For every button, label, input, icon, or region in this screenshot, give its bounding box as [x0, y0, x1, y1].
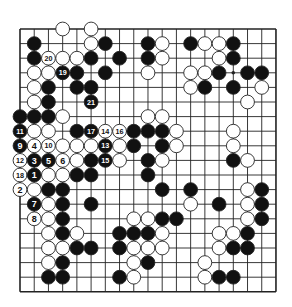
go-board: 201921111714169410131235615181278	[0, 0, 292, 307]
stone-disc	[170, 212, 184, 226]
stone-disc	[226, 81, 240, 95]
stone-disc	[141, 51, 155, 65]
white-stone-move-12: 12	[13, 154, 27, 168]
black-stone-move-17: 17	[84, 124, 98, 138]
stone-disc	[241, 241, 255, 255]
stone-disc	[127, 241, 141, 255]
black-stone	[226, 154, 240, 168]
stone-disc	[155, 51, 169, 65]
stone-disc	[212, 66, 226, 80]
white-stone-move-4: 4	[27, 139, 41, 153]
black-stone	[56, 227, 70, 241]
stone-disc	[141, 241, 155, 255]
black-stone	[98, 66, 112, 80]
black-stone	[141, 37, 155, 51]
white-stone	[198, 256, 212, 270]
stone-disc	[141, 168, 155, 182]
white-stone	[170, 139, 184, 153]
white-stone	[42, 168, 56, 182]
stone-disc	[255, 183, 269, 197]
black-stone	[70, 168, 84, 182]
stone-disc	[155, 183, 169, 197]
move-number-label: 18	[16, 171, 24, 180]
black-stone	[141, 168, 155, 182]
stone-disc	[84, 51, 98, 65]
black-stone	[170, 212, 184, 226]
stone-disc	[141, 110, 155, 124]
stone-disc	[241, 154, 255, 168]
stone-disc	[70, 51, 84, 65]
black-stone	[155, 212, 169, 226]
black-stone	[198, 81, 212, 95]
black-stone	[141, 227, 155, 241]
stone-disc	[155, 110, 169, 124]
stone-disc	[84, 168, 98, 182]
stone-disc	[255, 81, 269, 95]
move-number-label: 21	[87, 98, 95, 107]
move-number-label: 14	[101, 127, 109, 136]
white-stone-move-8: 8	[27, 212, 41, 226]
move-number-label: 6	[60, 156, 65, 166]
stone-disc	[226, 37, 240, 51]
stone-disc	[141, 212, 155, 226]
black-stone	[42, 110, 56, 124]
white-stone	[56, 139, 70, 153]
move-number-label: 12	[16, 156, 24, 165]
black-stone	[212, 66, 226, 80]
black-stone	[84, 81, 98, 95]
stone-disc	[141, 124, 155, 138]
stone-disc	[113, 270, 127, 284]
stone-disc	[155, 124, 169, 138]
stone-disc	[56, 212, 70, 226]
stone-disc	[70, 241, 84, 255]
white-stone	[27, 66, 41, 80]
stone-disc	[70, 81, 84, 95]
stone-disc	[56, 241, 70, 255]
black-stone-move-5: 5	[42, 154, 56, 168]
white-stone	[56, 22, 70, 36]
white-stone	[127, 241, 141, 255]
stone-disc	[241, 227, 255, 241]
stone-disc	[42, 212, 56, 226]
stone-disc	[84, 37, 98, 51]
stone-disc	[56, 168, 70, 182]
black-stone	[255, 66, 269, 80]
stone-disc	[241, 197, 255, 211]
white-stone	[113, 139, 127, 153]
stone-disc	[241, 66, 255, 80]
stone-disc	[70, 139, 84, 153]
move-number-label: 2	[17, 185, 22, 195]
white-stone	[42, 66, 56, 80]
move-number-label: 10	[44, 141, 52, 150]
black-stone	[113, 241, 127, 255]
white-stone	[127, 256, 141, 270]
stone-disc	[141, 66, 155, 80]
black-stone	[84, 154, 98, 168]
stone-disc	[98, 66, 112, 80]
black-stone	[155, 139, 169, 153]
stone-disc	[212, 37, 226, 51]
white-stone	[127, 212, 141, 226]
stone-disc	[56, 22, 70, 36]
stone-disc	[155, 139, 169, 153]
stone-disc	[84, 154, 98, 168]
white-stone	[27, 81, 41, 95]
black-stone	[141, 154, 155, 168]
stone-disc	[56, 256, 70, 270]
stone-disc	[212, 227, 226, 241]
stone-disc	[113, 139, 127, 153]
move-number-label: 3	[32, 156, 37, 166]
move-number-label: 20	[44, 54, 52, 63]
stone-disc	[141, 154, 155, 168]
stone-disc	[198, 81, 212, 95]
stone-disc	[226, 227, 240, 241]
white-stone	[42, 197, 56, 211]
white-stone	[141, 212, 155, 226]
black-stone	[84, 51, 98, 65]
black-stone	[155, 124, 169, 138]
black-stone-move-15: 15	[98, 154, 112, 168]
white-stone	[226, 124, 240, 138]
white-stone	[70, 154, 84, 168]
white-stone	[141, 66, 155, 80]
white-stone	[212, 227, 226, 241]
